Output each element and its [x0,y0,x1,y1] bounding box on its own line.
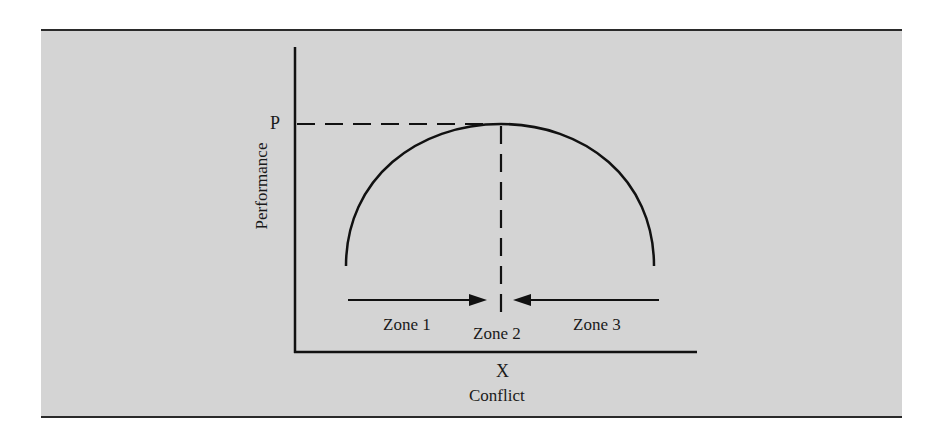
zone-1-label: Zone 1 [383,316,431,333]
x-axis-label: Conflict [469,387,525,404]
zone-3-label: Zone 3 [573,316,621,333]
x-marker-label: X [496,362,509,380]
performance-conflict-diagram [0,0,940,447]
y-axis-label: Performance [252,143,272,230]
zone-1-arrow-icon [348,294,487,306]
zone-2-label: Zone 2 [473,325,521,342]
y-marker-label: P [270,114,280,132]
zone-3-arrow-icon [513,294,659,306]
